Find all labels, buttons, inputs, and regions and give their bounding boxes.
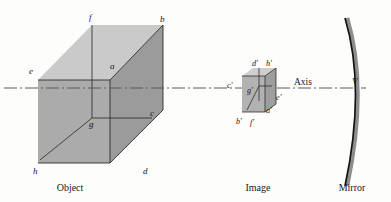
object-vertex-d: d	[143, 166, 148, 176]
image-vertex-e-prime: e′	[276, 93, 282, 102]
figure-canvas: a b c d e f g h a′ b′ c′ d′ e′ f′ g′ h′ …	[0, 0, 391, 202]
caption-mirror: Mirror	[339, 182, 366, 193]
object-vertex-g: g	[89, 119, 94, 129]
caption-image: Image	[246, 182, 272, 193]
image-vertex-d-prime: d′	[252, 59, 258, 68]
object-vertex-h: h	[33, 166, 38, 176]
object-vertex-e: e	[29, 66, 33, 76]
object-vertex-f: f	[89, 12, 93, 22]
object-vertex-b: b	[160, 14, 165, 24]
image-vertex-h-prime: h′	[266, 59, 272, 68]
diagram-labels: a b c d e f g h a′ b′ c′ d′ e′ f′ g′ h′ …	[0, 0, 391, 202]
image-vertex-f-prime: f′	[250, 118, 254, 127]
mirror-vertex-label: V	[352, 76, 359, 86]
image-vertex-c-prime: c′	[227, 81, 233, 90]
image-vertex-b-prime: b′	[236, 117, 242, 126]
caption-object: Object	[57, 182, 84, 193]
object-vertex-c: c	[150, 108, 154, 118]
object-vertex-a: a	[110, 61, 115, 71]
image-vertex-a-prime: a′	[266, 106, 272, 115]
axis-label: Axis	[294, 77, 312, 87]
image-vertex-g-prime: g′	[247, 86, 253, 95]
